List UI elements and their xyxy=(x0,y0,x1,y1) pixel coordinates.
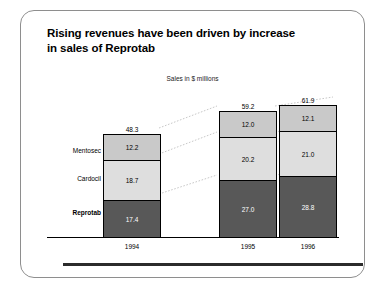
bar-stack-1995: 59.2 12.0 20.2 27.0 xyxy=(219,111,277,237)
slide-title-line-2: in sales of Reprotab xyxy=(47,42,155,54)
bar-stack-1994: 48.3 12.2 18.7 17.4 xyxy=(103,134,161,237)
bar-segment-1994-cardocil[interactable]: 18.7 xyxy=(104,161,160,201)
bar-segment-1996-cardocil[interactable]: 21.0 xyxy=(280,132,336,177)
bar-segment-1994-reprotab[interactable]: 17.4 xyxy=(104,201,160,238)
slide-title: Rising revenues have been driven by incr… xyxy=(47,26,347,56)
x-axis-line xyxy=(47,237,339,238)
bar-stack-1996: 61.9 12.1 21.0 28.8 xyxy=(279,105,337,237)
bar-total-1994: 48.3 xyxy=(104,126,160,133)
bar-segment-1996-reprotab[interactable]: 28.8 xyxy=(280,177,336,238)
chart-subtitle: Sales in $ millions xyxy=(21,75,364,82)
bottom-divider-rule xyxy=(63,263,363,266)
bar-segment-1994-mentosec[interactable]: 12.2 xyxy=(104,135,160,161)
bar-segment-1995-mentosec[interactable]: 12.0 xyxy=(220,112,276,138)
x-axis-tick-1995: 1995 xyxy=(219,243,277,250)
bar-total-1995: 59.2 xyxy=(220,103,276,110)
chart-plot-area: 48.3 12.2 18.7 17.4 59.2 12.0 20.2 27.0 … xyxy=(47,87,339,237)
bar-segment-1996-mentosec[interactable]: 12.1 xyxy=(280,106,336,132)
bar-segment-1995-cardocil[interactable]: 20.2 xyxy=(220,138,276,181)
x-axis-tick-1996: 1996 xyxy=(279,243,337,250)
bar-total-1996: 61.9 xyxy=(280,97,336,104)
x-axis-tick-1994: 1994 xyxy=(103,243,161,250)
bar-segment-1995-reprotab[interactable]: 27.0 xyxy=(220,181,276,238)
slide-title-line-1: Rising revenues have been driven by incr… xyxy=(47,27,295,39)
slide-frame: Rising revenues have been driven by incr… xyxy=(20,10,365,278)
